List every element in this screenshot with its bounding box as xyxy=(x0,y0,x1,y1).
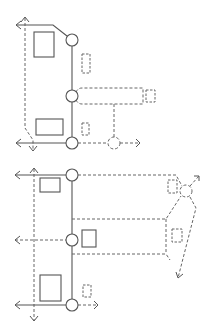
node-circle xyxy=(66,34,78,46)
dashed-route xyxy=(190,176,199,186)
dashed-node-circle xyxy=(108,137,120,149)
node-circle xyxy=(66,137,78,149)
dashed-room-box xyxy=(82,123,89,135)
room-box xyxy=(34,32,54,57)
dashed-route xyxy=(78,175,182,186)
dashed-room-box xyxy=(168,180,177,193)
dashed-room-box xyxy=(83,285,91,297)
arrow-down-left-icon xyxy=(176,272,183,278)
dashed-room-box xyxy=(172,229,182,242)
bottom-plan xyxy=(15,168,199,321)
dashed-room-box xyxy=(146,90,155,102)
dashed-route xyxy=(178,197,196,278)
top-plan xyxy=(16,17,155,151)
node-circle xyxy=(66,90,78,102)
room-box xyxy=(40,275,61,301)
room-box xyxy=(40,178,60,192)
dashed-corridor xyxy=(76,88,143,104)
node-circle xyxy=(66,234,78,246)
node-circle xyxy=(66,169,78,181)
top-left-dashed-route xyxy=(25,18,33,150)
diagram-canvas xyxy=(0,0,213,334)
room-box xyxy=(82,230,96,247)
room-box xyxy=(36,119,63,135)
dashed-node-circle xyxy=(180,185,192,197)
node-circle xyxy=(66,299,78,311)
dashed-corridor xyxy=(72,196,181,219)
dashed-corridor xyxy=(72,254,170,260)
dashed-room-box xyxy=(82,54,90,73)
